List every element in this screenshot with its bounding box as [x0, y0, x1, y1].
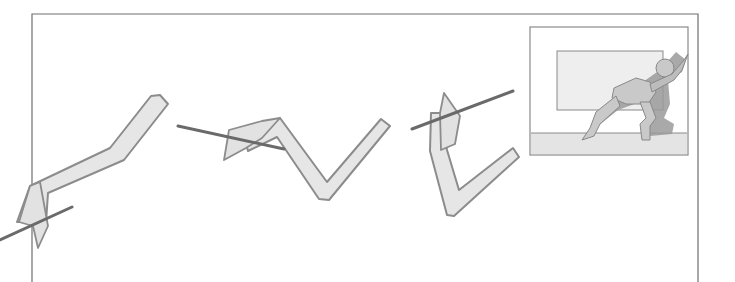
- limb-sketch-3: [412, 91, 519, 216]
- illustration-canvas: [0, 0, 735, 282]
- stick: [412, 91, 513, 129]
- illustration-figure: [0, 0, 735, 282]
- limb-sketch-1: [0, 95, 168, 248]
- pushing-figure-inset: [530, 27, 688, 155]
- hand-shape: [440, 93, 460, 150]
- limb-sketch-2: [178, 118, 390, 200]
- inset-floor: [531, 133, 687, 154]
